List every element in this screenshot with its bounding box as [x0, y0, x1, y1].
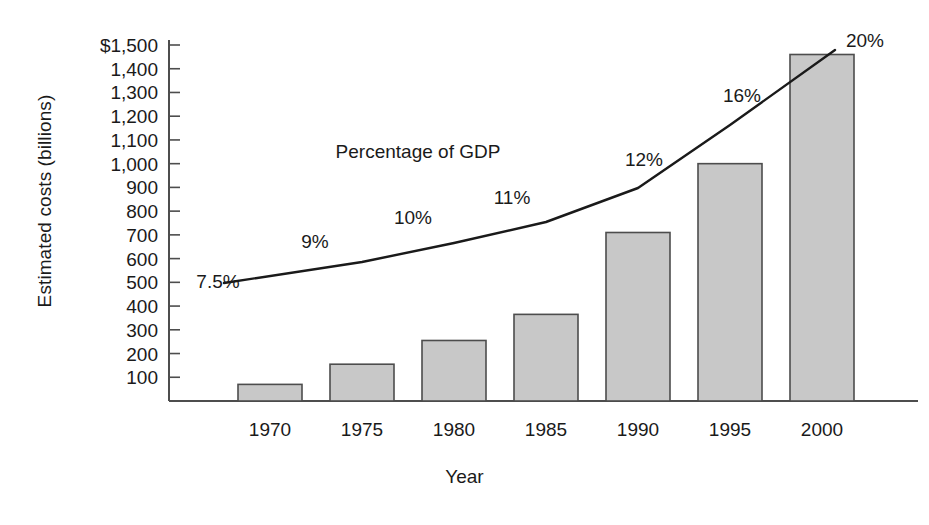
x-axis-tick-label: 1970 — [249, 420, 291, 439]
line-data-label: 20% — [846, 31, 884, 50]
x-axis-tick-label: 2000 — [801, 420, 843, 439]
chart-figure: Estimated costs (billions) $1,5001,4001,… — [0, 0, 929, 525]
bar — [514, 314, 578, 401]
x-axis-tick-label: 1990 — [617, 420, 659, 439]
bar — [238, 384, 302, 401]
bar — [698, 164, 762, 401]
line-data-label: 9% — [301, 232, 328, 251]
x-axis-tick-label: 1985 — [525, 420, 567, 439]
line-data-label: 10% — [394, 208, 432, 227]
y-axis-ticks — [169, 45, 180, 377]
line-data-label: 11% — [494, 188, 531, 207]
bar — [790, 54, 854, 401]
bar — [606, 232, 670, 401]
x-axis-tick-label: 1995 — [709, 420, 751, 439]
line-data-label: 16% — [723, 86, 761, 105]
plot-area — [0, 0, 929, 525]
series-annotation-label: Percentage of GDP — [336, 142, 501, 161]
x-axis-tick-label: 1980 — [433, 420, 475, 439]
x-axis-title: Year — [0, 466, 929, 488]
bar — [422, 340, 486, 401]
bar — [330, 364, 394, 401]
line-data-label: 7.5% — [196, 272, 239, 291]
line-data-label: 12% — [625, 150, 663, 169]
x-axis-tick-label: 1975 — [341, 420, 383, 439]
bar-series — [238, 54, 854, 401]
